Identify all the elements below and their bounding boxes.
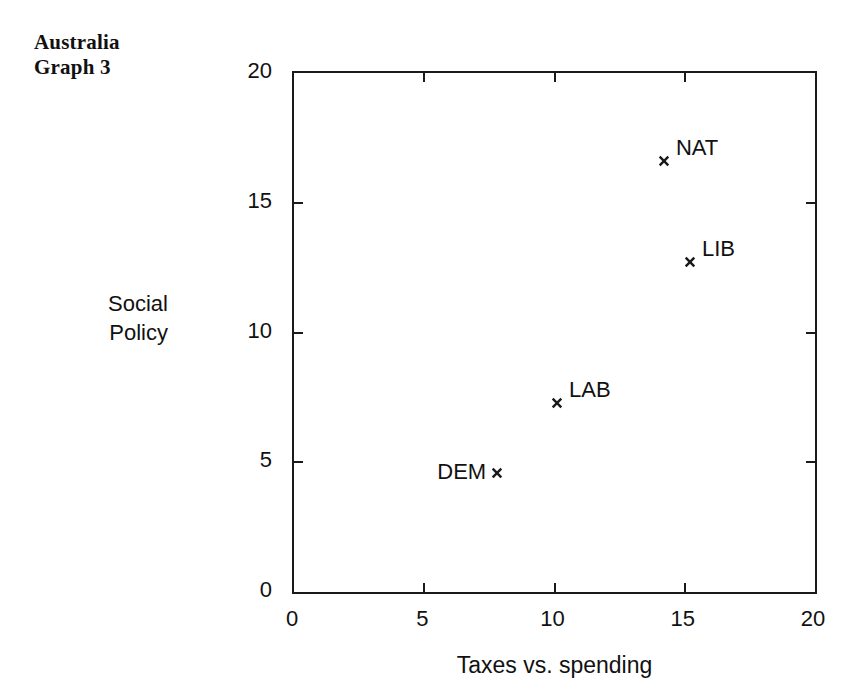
y-tick-left-5 (294, 461, 303, 463)
y-tick-left-15 (294, 202, 303, 204)
y-axis-title: Social Policy (108, 289, 168, 347)
y-axis-title-line-1: Social (108, 289, 168, 318)
chart-title-block: Australia Graph 3 (34, 30, 120, 80)
cross-marker-icon (682, 255, 697, 270)
plot-area: NATLIBLABDEM (292, 71, 817, 594)
y-tick-label-20: 20 (248, 58, 272, 84)
x-tick-label-15: 15 (671, 606, 695, 632)
y-tick-right-5 (806, 461, 815, 463)
x-tick-top-15 (684, 73, 686, 82)
y-tick-label-0: 0 (260, 577, 272, 603)
x-axis-title: Taxes vs. spending (292, 652, 817, 679)
data-point-label-nat: NAT (676, 136, 718, 160)
chart-title-line-1: Australia (34, 30, 120, 55)
chart-title-line-2: Graph 3 (34, 55, 120, 80)
y-tick-right-10 (806, 332, 815, 334)
y-tick-right-15 (806, 202, 815, 204)
x-tick-bottom-10 (554, 583, 556, 592)
x-tick-top-5 (423, 73, 425, 82)
x-tick-top-10 (554, 73, 556, 82)
x-tick-label-10: 10 (540, 606, 564, 632)
cross-marker-icon (656, 154, 671, 169)
y-tick-label-5: 5 (260, 447, 272, 473)
data-point-label-lab: LAB (569, 378, 611, 402)
y-axis-title-line-2: Policy (108, 318, 168, 347)
x-tick-label-20: 20 (801, 606, 825, 632)
y-tick-left-10 (294, 332, 303, 334)
x-tick-label-0: 0 (286, 606, 298, 632)
y-tick-label-15: 15 (248, 188, 272, 214)
x-tick-bottom-15 (684, 583, 686, 592)
data-point-label-lib: LIB (702, 237, 735, 261)
data-point-label-dem: DEM (437, 460, 486, 484)
cross-marker-icon (490, 465, 505, 480)
x-tick-bottom-5 (423, 583, 425, 592)
x-tick-label-5: 5 (416, 606, 428, 632)
cross-marker-icon (550, 395, 565, 410)
y-tick-label-10: 10 (248, 318, 272, 344)
